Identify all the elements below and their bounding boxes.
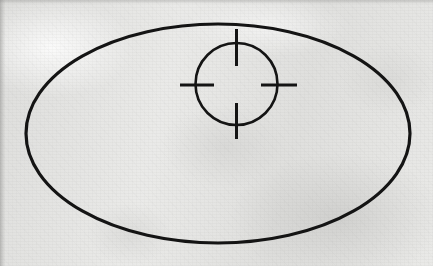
diagram-canvas bbox=[0, 0, 433, 266]
scanned-figure-page bbox=[0, 0, 433, 266]
outer-ellipse bbox=[26, 24, 410, 243]
